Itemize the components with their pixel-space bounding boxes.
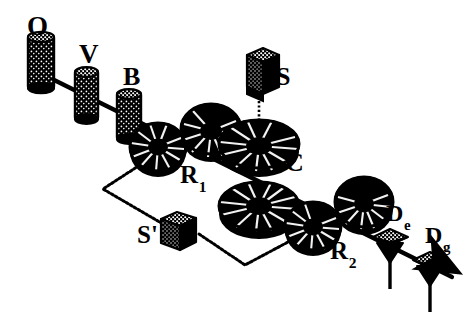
label-R2-main: R	[330, 237, 348, 264]
component-detector-Dg	[413, 252, 448, 312]
label-De-subscript: e	[404, 217, 411, 233]
label-De-main: D	[386, 200, 403, 226]
component-detector-De	[373, 229, 408, 289]
component-oven-O	[28, 32, 54, 93]
label-oven-O: O	[27, 13, 48, 40]
component-ring-before-detectors	[335, 177, 393, 235]
label-Dg-main: D	[425, 222, 442, 248]
label-detector-De: De	[386, 201, 410, 230]
label-source-S: S	[276, 64, 290, 90]
label-Dg-subscript: g	[443, 239, 450, 255]
component-velocity-selector-V	[75, 67, 98, 124]
label-source-S-prime: S'	[137, 222, 158, 247]
label-R1-subscript: 1	[199, 178, 207, 195]
label-ramsey-zone-R1: R1	[180, 162, 206, 192]
label-box-B: B	[123, 64, 140, 90]
label-cavity-C: C	[285, 150, 304, 176]
label-ramsey-zone-R2: R2	[330, 238, 356, 268]
label-R1-main: R	[180, 161, 198, 188]
apparatus-drawing	[0, 0, 474, 321]
label-detector-Dg: Dg	[425, 223, 450, 252]
label-velocity-selector-V: V	[79, 41, 99, 68]
component-ramsey-zone-R1	[130, 123, 186, 177]
apparatus-figure: O V B S C R1 S' R2 De Dg	[0, 0, 474, 321]
label-R2-subscript: 2	[349, 254, 357, 271]
component-source-S-prime	[161, 212, 196, 250]
